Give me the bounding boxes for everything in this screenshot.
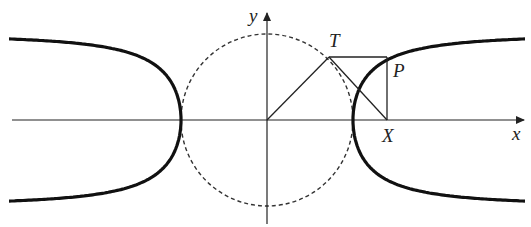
segment-OT [267, 57, 329, 120]
diagram-svg: x y T P X [0, 0, 531, 227]
diagram-canvas: x y T P X [0, 0, 531, 227]
point-T-label: T [329, 30, 341, 51]
point-P-label: P [392, 60, 405, 81]
x-axis-label: x [511, 123, 521, 144]
point-X-label: X [381, 125, 395, 146]
y-axis-label: y [247, 5, 258, 26]
